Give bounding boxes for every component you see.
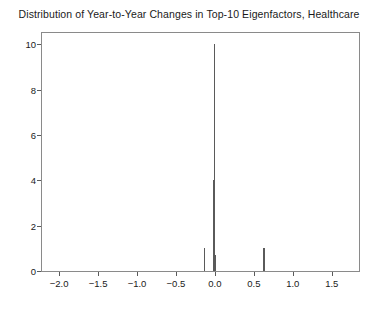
y-axis-tick-label: 10 [6,39,36,50]
y-axis-tick [37,226,41,227]
x-axis-tick [215,272,216,276]
x-axis-tick-label: −2.0 [39,278,79,289]
x-axis-tick [176,272,177,276]
x-axis-tick-label: −1.5 [78,278,118,289]
y-axis-tick [37,271,41,272]
chart-title: Distribution of Year-to-Year Changes in … [0,8,378,20]
y-axis-tick [37,135,41,136]
y-axis-tick-label: 4 [6,175,36,186]
y-axis-tick [37,44,41,45]
plot-area [42,33,359,271]
x-axis-tick [254,272,255,276]
bar [204,248,205,271]
x-axis-tick [59,272,60,276]
bar [214,44,215,271]
x-axis-tick-label: 0.0 [195,278,235,289]
y-axis-tick-label: 2 [6,220,36,231]
y-axis-tick-label: 0 [6,266,36,277]
x-axis-tick-label: −0.5 [156,278,196,289]
x-axis-tick-label: 0.5 [234,278,274,289]
y-axis-tick-label: 8 [6,84,36,95]
y-axis-tick-label: 6 [6,130,36,141]
bar [263,248,264,271]
y-axis-tick [37,180,41,181]
y-axis-tick [37,90,41,91]
x-axis-tick-label: 1.5 [312,278,352,289]
bar [215,255,216,271]
chart-figure: Distribution of Year-to-Year Changes in … [0,0,378,311]
x-axis-tick [137,272,138,276]
x-axis-tick [332,272,333,276]
x-axis-tick-label: 1.0 [273,278,313,289]
x-axis-tick [98,272,99,276]
x-axis-tick-label: −1.0 [117,278,157,289]
x-axis-tick [293,272,294,276]
